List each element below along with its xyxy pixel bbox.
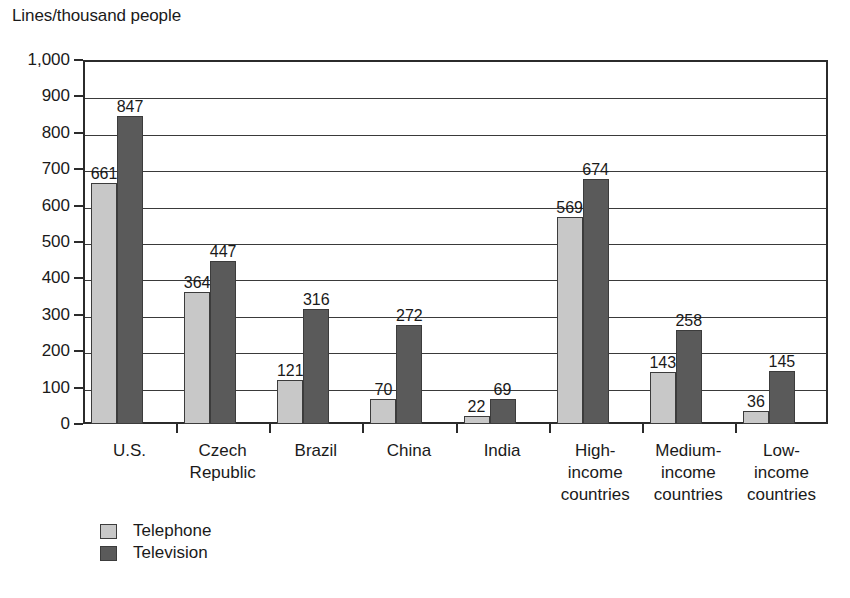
x-axis-label: U.S. [83, 440, 176, 462]
bar-television[interactable]: 316 [303, 309, 329, 424]
bar-telephone[interactable]: 364 [184, 292, 210, 424]
y-axis-tick [74, 132, 83, 134]
bar-group: 70272 [362, 60, 455, 424]
bar-group: 36145 [735, 60, 828, 424]
x-axis-category-labels: U.S.Czech RepublicBrazilChinaIndiaHigh- … [83, 440, 828, 510]
bar-television[interactable]: 258 [676, 330, 702, 424]
bar-value-label: 674 [582, 161, 609, 179]
legend-label: Telephone [133, 521, 211, 541]
y-axis-tick [74, 277, 83, 279]
y-axis-tick [74, 59, 83, 61]
y-axis-tick [74, 205, 83, 207]
bar-telephone[interactable]: 661 [91, 183, 117, 424]
bar-group: 364447 [176, 60, 269, 424]
bar-value-label: 447 [210, 243, 237, 261]
bar-value-label: 316 [303, 291, 330, 309]
y-axis-tick-label: 700 [42, 159, 70, 179]
x-axis-tick [269, 424, 271, 433]
x-axis-label: Czech Republic [176, 440, 269, 484]
x-axis-tick [456, 424, 458, 433]
x-axis-label: High- income countries [549, 440, 642, 506]
bar-television[interactable]: 69 [490, 399, 516, 424]
bar-group: 143258 [642, 60, 735, 424]
bar-television[interactable]: 674 [583, 179, 609, 424]
bar-television[interactable]: 145 [769, 371, 795, 424]
bar-value-label: 258 [675, 312, 702, 330]
x-axis-label: China [362, 440, 455, 462]
bar-value-label: 69 [494, 381, 512, 399]
legend-label: Television [133, 543, 208, 563]
legend-swatch-icon [100, 524, 117, 539]
x-axis-label: Medium- income countries [642, 440, 735, 506]
bar-value-label: 569 [556, 199, 583, 217]
bar-value-label: 22 [468, 398, 486, 416]
legend: TelephoneTelevision [100, 520, 211, 564]
y-axis-tick-label: 0 [61, 414, 70, 434]
y-axis-tick [74, 423, 83, 425]
y-axis-tick [74, 314, 83, 316]
y-axis-tick [74, 168, 83, 170]
bar-value-label: 70 [374, 381, 392, 399]
x-axis-tick [735, 424, 737, 433]
bar-value-label: 145 [769, 353, 796, 371]
bar-television[interactable]: 272 [396, 325, 422, 424]
bar-value-label: 364 [184, 274, 211, 292]
bar-telephone[interactable]: 36 [743, 411, 769, 424]
x-axis-label: Low- income countries [735, 440, 828, 506]
y-axis-tick-label: 800 [42, 123, 70, 143]
y-axis-tick-label: 400 [42, 268, 70, 288]
bar-telephone[interactable]: 22 [464, 416, 490, 424]
bar-telephone[interactable]: 121 [277, 380, 303, 424]
y-axis-tick-label: 500 [42, 232, 70, 252]
x-axis-ticks [83, 424, 828, 434]
bar-group: 2269 [456, 60, 549, 424]
y-axis-tick-label: 100 [42, 378, 70, 398]
bar-value-label: 36 [747, 393, 765, 411]
bar-value-label: 847 [117, 98, 144, 116]
y-axis-tick-label: 600 [42, 196, 70, 216]
y-axis-tick-label: 900 [42, 86, 70, 106]
legend-item[interactable]: Television [100, 542, 211, 564]
y-axis-tick [74, 350, 83, 352]
y-axis-tick-labels: 01002003004005006007008009001,000 [0, 60, 70, 424]
bar-group: 661847 [83, 60, 176, 424]
bar-value-label: 143 [649, 354, 676, 372]
legend-item[interactable]: Telephone [100, 520, 211, 542]
y-axis-tick [74, 387, 83, 389]
x-axis-tick [176, 424, 178, 433]
y-axis-tick [74, 241, 83, 243]
bar-telephone[interactable]: 70 [370, 399, 396, 424]
x-axis-tick [642, 424, 644, 433]
y-axis-tick [74, 95, 83, 97]
y-axis-tick-label: 1,000 [27, 50, 70, 70]
y-axis-tick-label: 200 [42, 341, 70, 361]
x-axis-label: India [456, 440, 549, 462]
x-axis-tick [362, 424, 364, 433]
bar-group: 121316 [269, 60, 362, 424]
bar-value-label: 272 [396, 307, 423, 325]
bar-television[interactable]: 447 [210, 261, 236, 424]
bar-telephone[interactable]: 569 [557, 217, 583, 424]
bar-value-label: 121 [277, 362, 304, 380]
bar-television[interactable]: 847 [117, 116, 143, 424]
x-axis-label: Brazil [269, 440, 362, 462]
x-axis-tick [549, 424, 551, 433]
y-axis-tick-label: 300 [42, 305, 70, 325]
bar-telephone[interactable]: 143 [650, 372, 676, 424]
legend-swatch-icon [100, 546, 117, 561]
bar-value-label: 661 [91, 165, 118, 183]
bars-layer: 6618473644471213167027222695696741432583… [83, 60, 828, 424]
bar-group: 569674 [549, 60, 642, 424]
chart-title: Lines/thousand people [12, 6, 181, 26]
